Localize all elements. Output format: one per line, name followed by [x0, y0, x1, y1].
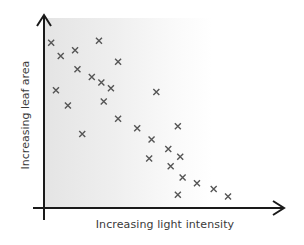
x-marker-icon [48, 40, 54, 46]
x-marker-icon [149, 137, 155, 143]
x-marker-icon [175, 123, 181, 129]
x-marker-icon [115, 59, 121, 65]
x-marker-icon [115, 116, 121, 122]
x-marker-icon [165, 146, 171, 152]
data-markers [48, 38, 231, 200]
x-marker-icon [79, 131, 85, 137]
x-marker-icon [108, 85, 114, 91]
x-marker-icon [177, 154, 183, 160]
x-axis-label: Increasing light intensity [60, 218, 270, 231]
x-marker-icon [74, 66, 80, 72]
x-marker-icon [65, 102, 71, 108]
x-marker-icon [101, 99, 107, 105]
x-marker-icon [58, 53, 64, 59]
x-marker-icon [96, 38, 102, 44]
y-axis-label: Increasing leaf area [19, 55, 32, 175]
x-marker-icon [89, 74, 95, 80]
x-marker-icon [175, 192, 181, 198]
x-marker-icon [72, 47, 78, 53]
x-marker-icon [98, 80, 104, 86]
x-marker-icon [225, 194, 231, 200]
x-marker-icon [53, 87, 59, 93]
x-marker-icon [134, 125, 140, 131]
scatter-chart: Increasing leaf area Increasing light in… [0, 0, 304, 245]
x-marker-icon [153, 89, 159, 95]
plot-svg [0, 0, 304, 245]
x-marker-icon [146, 156, 152, 162]
x-marker-icon [180, 175, 186, 181]
x-marker-icon [168, 163, 174, 169]
x-marker-icon [211, 186, 217, 192]
x-marker-icon [194, 180, 200, 186]
